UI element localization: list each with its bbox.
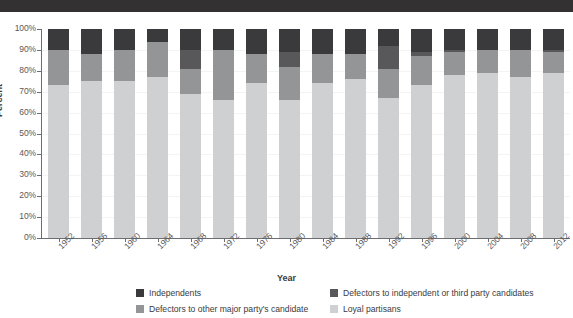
bar-segment — [510, 29, 530, 50]
bar-segment — [279, 52, 299, 67]
bar-segment — [114, 50, 134, 81]
y-axis-tick-label: 30% — [19, 169, 36, 179]
bar-segment — [345, 54, 365, 79]
bar-segment — [543, 29, 563, 50]
legend-label: Independents — [149, 288, 201, 298]
legend-label: Defectors to other major party's candida… — [149, 304, 308, 314]
bar-2004[interactable] — [477, 29, 497, 238]
bar-segment — [246, 29, 266, 54]
legend-swatch-icon — [330, 289, 338, 297]
bar-segment — [180, 69, 200, 94]
bar-segment — [477, 50, 497, 73]
legend-item[interactable]: Defectors to other major party's candida… — [136, 304, 308, 314]
bar-segment — [411, 56, 431, 85]
bar-segment — [180, 50, 200, 69]
y-axis-tick-label: 60% — [19, 107, 36, 117]
bar-segment — [213, 50, 233, 100]
bar-segment — [444, 29, 464, 50]
y-axis-tick-mark — [37, 217, 41, 218]
bar-segment — [48, 85, 68, 238]
bar-segment — [345, 79, 365, 238]
bar-segment — [81, 29, 101, 54]
y-axis-tick-mark — [37, 50, 41, 51]
bar-segment — [543, 73, 563, 238]
bar-1972[interactable] — [213, 29, 233, 238]
x-axis-label: Year — [0, 273, 573, 283]
bar-segment — [213, 100, 233, 238]
legend-label: Loyal partisans — [343, 304, 401, 314]
plot-area — [42, 29, 570, 238]
bar-segment — [411, 85, 431, 238]
y-axis-label: Percent — [0, 84, 4, 117]
y-axis-tick-mark — [37, 134, 41, 135]
y-axis-tick-mark — [37, 154, 41, 155]
y-axis-tick-mark — [37, 238, 41, 239]
legend-swatch-icon — [136, 305, 144, 313]
chart-legend: IndependentsDefectors to independent or … — [0, 288, 573, 318]
bar-segment — [312, 29, 332, 54]
bar-segment — [246, 54, 266, 83]
bar-segment — [246, 83, 266, 238]
y-axis-tick-mark — [37, 92, 41, 93]
y-axis-tick-mark — [37, 71, 41, 72]
y-axis-tick-label: 40% — [19, 148, 36, 158]
bar-segment — [114, 81, 134, 238]
title-bar — [0, 0, 573, 12]
bar-segment — [81, 54, 101, 81]
bar-1964[interactable] — [147, 29, 167, 238]
bar-segment — [378, 69, 398, 98]
bar-1976[interactable] — [246, 29, 266, 238]
bar-1980[interactable] — [279, 29, 299, 238]
legend-swatch-icon — [136, 289, 144, 297]
bar-segment — [477, 29, 497, 50]
bar-segment — [114, 29, 134, 50]
bar-2012[interactable] — [543, 29, 563, 238]
bar-segment — [147, 29, 167, 42]
bar-segment — [180, 29, 200, 50]
bar-segment — [147, 42, 167, 78]
bar-segment — [378, 98, 398, 238]
y-axis-tick-label: 50% — [19, 128, 36, 138]
bar-segment — [345, 29, 365, 54]
bar-segment — [180, 94, 200, 238]
bar-segment — [81, 81, 101, 238]
chart-container: Percent 0%10%20%30%40%50%60%70%80%90%100… — [0, 12, 573, 318]
bar-segment — [48, 29, 68, 50]
bar-1952[interactable] — [48, 29, 68, 238]
legend-item[interactable]: Loyal partisans — [330, 304, 401, 314]
y-axis-tick-mark — [37, 29, 41, 30]
bar-segment — [543, 52, 563, 73]
y-axis-tick-label: 70% — [19, 86, 36, 96]
y-axis-tick-label: 80% — [19, 65, 36, 75]
bar-segment — [444, 52, 464, 75]
bar-2008[interactable] — [510, 29, 530, 238]
legend-item[interactable]: Defectors to independent or third party … — [330, 288, 534, 298]
bar-segment — [378, 46, 398, 69]
y-axis-tick-mark — [37, 113, 41, 114]
bar-segment — [147, 77, 167, 238]
bar-segment — [444, 75, 464, 238]
bar-segment — [279, 29, 299, 52]
legend-label: Defectors to independent or third party … — [343, 288, 534, 298]
bar-segment — [411, 29, 431, 52]
bar-1988[interactable] — [345, 29, 365, 238]
y-axis-tick-label: 90% — [19, 44, 36, 54]
bar-segment — [477, 73, 497, 238]
y-axis-tick-mark — [37, 175, 41, 176]
y-axis-tick-label: 10% — [19, 211, 36, 221]
bar-1996[interactable] — [411, 29, 431, 238]
y-axis-tick-label: 20% — [19, 190, 36, 200]
y-axis-tick-label: 100% — [15, 23, 36, 33]
bar-1984[interactable] — [312, 29, 332, 238]
bar-segment — [213, 29, 233, 50]
bar-1960[interactable] — [114, 29, 134, 238]
legend-swatch-icon — [330, 305, 338, 313]
legend-item[interactable]: Independents — [136, 288, 201, 298]
bar-1968[interactable] — [180, 29, 200, 238]
bar-2000[interactable] — [444, 29, 464, 238]
bar-1992[interactable] — [378, 29, 398, 238]
bar-segment — [279, 100, 299, 238]
bar-1956[interactable] — [81, 29, 101, 238]
y-axis-tick-label: 0% — [24, 232, 36, 242]
y-axis-tick-mark — [37, 196, 41, 197]
